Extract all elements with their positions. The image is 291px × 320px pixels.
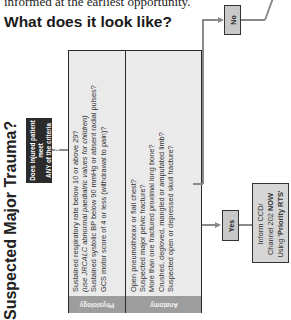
criterion: Open pneumothorax or flail chest?: [129, 52, 138, 292]
question-line-1: Does injured patient meet: [29, 120, 45, 181]
no-box: No: [224, 5, 241, 35]
criterion: (use JRCALC abnormal paediatric values f…: [80, 52, 89, 292]
intro-text: informed at the earliest opportunity.: [4, 0, 191, 10]
column-divider: [125, 50, 126, 313]
inform-line-2: Channel 202 NOW: [266, 187, 276, 261]
connector-no-vertical: [202, 19, 204, 184]
connector-no-out: [241, 19, 265, 21]
criterion: Suspected major pelvic fracture?: [138, 52, 147, 292]
flowchart-title: Suspected Major Trauma?: [2, 121, 20, 320]
anatomy-criteria: Open pneumothorax or flail chest? Suspec…: [129, 52, 175, 292]
physiology-criteria: Sustained respiratory rate below 10 or a…: [71, 52, 108, 292]
header-physiology: Physiology: [69, 296, 125, 313]
arrow-right-icon: [215, 222, 221, 228]
no-label: No: [229, 15, 236, 24]
yes-box: Yes: [222, 210, 239, 241]
header-physiology-label: Physiology: [80, 301, 115, 308]
header-anatomy: Anatomy: [126, 296, 201, 313]
section-heading: What does it look like?: [4, 13, 172, 31]
criterion: More than one fractured proximal long bo…: [147, 52, 156, 292]
connector-no-up: [264, 0, 273, 20]
inform-line-3: Using 'Priority RTS': [276, 187, 286, 261]
criterion: GCS motor score of 4 or less (withdrawal…: [99, 52, 108, 292]
question-line-2: ANY of the criteria below?: [45, 120, 61, 181]
inform-ccd-box: Inform CCD/ Channel 202 NOW Using 'Prior…: [252, 183, 289, 263]
connector-no-bottom: [193, 183, 203, 185]
criterion: Suspected open or depressed skull fractu…: [166, 52, 175, 292]
criterion: Sustained respiratory rate below 10 or a…: [71, 52, 80, 292]
yes-label: Yes: [227, 219, 234, 231]
inform-line-1: Inform CCD/: [256, 187, 266, 261]
connector-no-horizontal: [202, 19, 218, 21]
connector-yes-inform: [239, 224, 252, 226]
criterion: Sustained systolic BP below 90 mmHg or a…: [89, 52, 98, 292]
question-box: Does injured patient meet ANY of the cri…: [26, 118, 52, 183]
criterion: Crushed, degloved, mangled or amputated …: [157, 52, 166, 292]
connector-yes: [202, 224, 216, 226]
header-anatomy-label: Anatomy: [150, 301, 178, 308]
